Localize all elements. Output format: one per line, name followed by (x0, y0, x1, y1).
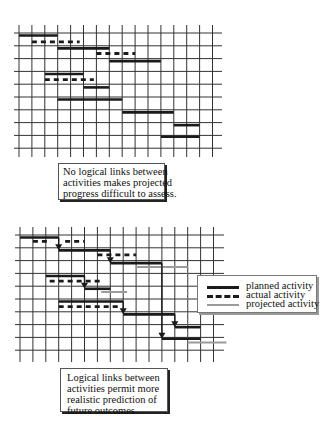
caption-line: future outcomes. (67, 405, 161, 416)
legend-item-projected: projected activity (198, 300, 316, 310)
caption-line: progress difficult to assess. (63, 188, 160, 199)
gantt-chart-linked (0, 0, 336, 431)
caption-linked: Logical links between activities permit … (60, 368, 168, 412)
legend: planned activity actual activity project… (197, 275, 317, 313)
caption-unlinked: No logical links between activities make… (58, 163, 165, 200)
projected-line-swatch (207, 304, 239, 306)
actual-line-swatch (207, 295, 239, 298)
planned-line-swatch (207, 286, 239, 289)
caption-line: activities makes projected (63, 177, 160, 188)
legend-label: projected activity (246, 299, 319, 309)
caption-line: realistic prediction of (67, 394, 161, 405)
caption-line: activities permit more (67, 383, 161, 394)
caption-line: Logical links between (67, 372, 161, 383)
caption-line: No logical links between (63, 166, 160, 177)
